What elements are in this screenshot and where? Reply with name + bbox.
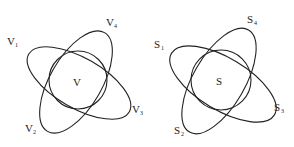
label-v3: V xyxy=(132,103,140,115)
diagram-v: V V 1 V 4 V 3 V 2 xyxy=(7,16,143,144)
center-label-s: S xyxy=(216,75,222,87)
label-v4: V xyxy=(106,16,114,28)
label-s4: S xyxy=(247,13,253,25)
label-v1: V xyxy=(7,35,15,47)
label-v3-sub: 3 xyxy=(140,110,143,116)
label-v1-sub: 1 xyxy=(15,42,18,48)
label-v2: V xyxy=(25,122,33,134)
center-label-v: V xyxy=(73,76,81,88)
label-s1-sub: 1 xyxy=(161,45,164,51)
label-s1: S xyxy=(154,38,160,50)
label-s4-sub: 4 xyxy=(254,20,257,26)
label-v4-sub: 4 xyxy=(114,23,117,29)
diagram-s: S S 1 S 4 S 3 S 2 xyxy=(154,13,288,145)
ellipse-s1-s3 xyxy=(158,31,288,137)
label-s3: S xyxy=(274,101,280,113)
label-v2-sub: 2 xyxy=(33,129,36,135)
venn-diagrams: V V 1 V 4 V 3 V 2 S S 1 S 4 S 3 S 2 xyxy=(0,0,294,147)
label-s2-sub: 2 xyxy=(181,131,184,137)
label-s2: S xyxy=(174,124,180,136)
label-s3-sub: 3 xyxy=(281,108,284,114)
